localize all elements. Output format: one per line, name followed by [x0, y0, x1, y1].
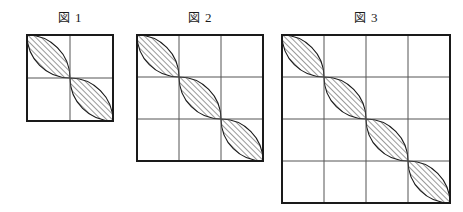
- figure-caption-number: 1: [75, 10, 83, 25]
- figure-caption-number: 3: [371, 10, 379, 25]
- figure-caption-kanji: 図: [58, 11, 71, 25]
- figure-1: 図 1: [7, 11, 133, 127]
- figure-caption: 図 2: [117, 11, 283, 25]
- figure-3: 図 3: [262, 11, 463, 209]
- figure-caption-kanji: 図: [188, 11, 201, 25]
- figure-2: 図 2: [117, 11, 283, 167]
- figure-sheet: 図 1図 2図 3: [0, 0, 463, 212]
- figure-caption: 図 3: [262, 11, 463, 25]
- figure-caption-number: 2: [205, 10, 213, 25]
- figure-drawing: [279, 32, 453, 206]
- figure-drawing: [24, 32, 116, 124]
- figure-caption: 図 1: [7, 11, 133, 25]
- figure-caption-kanji: 図: [354, 11, 367, 25]
- figure-drawing: [134, 32, 266, 164]
